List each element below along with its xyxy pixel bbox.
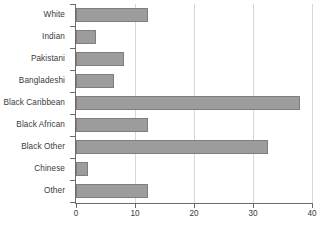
bar-black-other <box>76 140 268 154</box>
x-axis-tick <box>76 204 77 208</box>
y-axis-tick <box>70 48 75 49</box>
bar-black-caribbean <box>76 96 300 110</box>
x-tick-label-0: 0 <box>74 210 79 218</box>
x-tick-label-30: 30 <box>248 210 257 218</box>
gridline-40 <box>312 4 313 203</box>
y-axis-tick <box>70 92 75 93</box>
x-axis-tick <box>135 204 136 208</box>
y-axis-tick <box>70 4 75 5</box>
y-axis-tick <box>70 70 75 71</box>
category-label-white: White <box>44 11 65 19</box>
bar-black-african <box>76 118 148 132</box>
category-label-black-caribbean: Black Caribbean <box>3 99 65 107</box>
category-label-chinese: Chinese <box>34 165 65 173</box>
y-axis-tick <box>70 180 75 181</box>
bar-pakistani <box>76 52 124 66</box>
x-tick-label-40: 40 <box>307 210 316 218</box>
y-axis-tick <box>70 158 75 159</box>
x-axis-tick <box>312 204 313 208</box>
category-label-black-african: Black African <box>16 121 65 129</box>
bar-other <box>76 184 148 198</box>
category-label-black-other: Black Other <box>21 143 65 151</box>
bar-chart: White Indian Pakistani Bangladeshi Black… <box>0 0 325 227</box>
y-axis-line <box>75 4 76 203</box>
x-axis-tick <box>194 204 195 208</box>
bar-bangladeshi <box>76 74 114 88</box>
category-axis-labels: White Indian Pakistani Bangladeshi Black… <box>0 0 68 203</box>
category-label-pakistani: Pakistani <box>31 55 65 63</box>
y-axis-tick <box>70 26 75 27</box>
bar-white <box>76 8 148 22</box>
category-label-indian: Indian <box>42 33 65 41</box>
y-axis-tick <box>70 114 75 115</box>
category-label-bangladeshi: Bangladeshi <box>19 77 65 85</box>
category-label-other: Other <box>44 187 65 195</box>
x-axis-tick <box>253 204 254 208</box>
y-axis-tick <box>70 202 75 203</box>
y-axis-tick <box>70 136 75 137</box>
x-tick-label-20: 20 <box>189 210 198 218</box>
bar-chinese <box>76 162 88 176</box>
plot-area <box>76 4 312 203</box>
x-tick-label-10: 10 <box>130 210 139 218</box>
bar-indian <box>76 30 96 44</box>
